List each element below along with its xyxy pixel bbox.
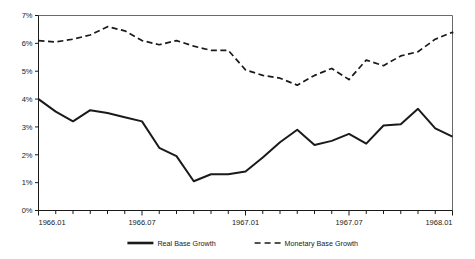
chart-container: 0%1%2%3%4%5%6%7% 1966.011966.071967.0119…	[0, 0, 475, 259]
y-tick-label: 4%	[22, 95, 33, 104]
series-line-real-base-growth	[39, 99, 453, 181]
data-series-group	[39, 27, 453, 182]
x-tick-label: 1967.07	[335, 218, 362, 227]
plot-frame	[39, 16, 453, 211]
x-tick-label: 1966.07	[128, 218, 155, 227]
y-tick-label: 6%	[22, 39, 33, 48]
y-tick-label: 7%	[22, 11, 33, 20]
y-tick-label: 1%	[22, 178, 33, 187]
legend-label: Monetary Base Growth	[285, 239, 359, 248]
legend-item[interactable]: Monetary Base Growth	[255, 239, 359, 248]
chart-legend: Real Base GrowthMonetary Base Growth	[127, 239, 358, 248]
legend-item[interactable]: Real Base Growth	[127, 239, 215, 248]
x-tick-label: 1968.01	[425, 218, 452, 227]
y-axis-tick-labels: 0%1%2%3%4%5%6%7%	[22, 11, 33, 215]
y-tick-label: 3%	[22, 123, 33, 132]
y-tick-label: 0%	[22, 206, 33, 215]
y-axis-ticks	[35, 16, 39, 211]
x-axis-tick-labels: 1966.011966.071967.011967.071968.01	[39, 218, 453, 227]
series-line-monetary-base-growth	[39, 27, 453, 86]
x-tick-label: 1967.01	[232, 218, 259, 227]
legend-label: Real Base Growth	[157, 239, 215, 248]
x-axis-ticks	[39, 211, 453, 216]
y-tick-label: 2%	[22, 151, 33, 160]
line-chart: 0%1%2%3%4%5%6%7% 1966.011966.071967.0119…	[0, 0, 475, 259]
y-tick-label: 5%	[22, 67, 33, 76]
x-tick-label: 1966.01	[39, 218, 66, 227]
